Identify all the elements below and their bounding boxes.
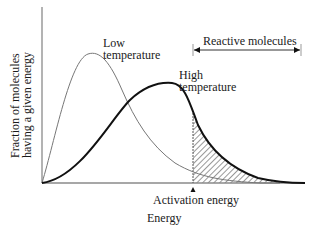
high-temperature-label-2: temperature (179, 80, 236, 94)
activation-energy-label: Activation energy (153, 193, 239, 207)
low-temperature-label-2: temperature (103, 48, 160, 62)
high-temperature-curve (42, 83, 305, 183)
arrowhead-left-icon (194, 47, 200, 53)
x-axis-label: Energy (147, 211, 181, 225)
energy-distribution-chart: Reactive molecules Low temperature High … (0, 0, 317, 231)
activation-marker-icon (191, 187, 196, 192)
reactive-hatched-area (42, 83, 305, 183)
y-axis-label-2: having a given energy (20, 52, 34, 158)
reactive-molecules-label: Reactive molecules (203, 34, 297, 48)
